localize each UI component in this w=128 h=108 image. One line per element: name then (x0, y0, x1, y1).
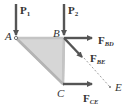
label-joint-b: B (53, 27, 60, 39)
label-joint-c: C (57, 87, 65, 99)
truss-diagram: P1 P2 A B C E FBD FBE FCE (0, 0, 128, 108)
joint-a-pin (14, 36, 17, 39)
label-point-e: E (114, 81, 122, 93)
label-f-bd: FBD (98, 34, 114, 47)
label-f-be: FBE (90, 52, 106, 65)
label-p1: P1 (20, 4, 31, 18)
label-p2: P2 (68, 4, 79, 18)
label-joint-a: A (4, 30, 12, 42)
force-be-arrow (64, 38, 82, 57)
point-e (109, 86, 111, 88)
label-f-ce: FCE (83, 92, 99, 105)
member-bc (63, 38, 64, 84)
